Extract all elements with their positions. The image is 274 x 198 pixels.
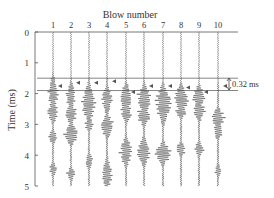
arrival-arrow-icon xyxy=(58,84,62,88)
waveform-trace xyxy=(174,32,188,186)
arrival-arrow-icon xyxy=(76,81,80,85)
waveform-trace xyxy=(137,32,151,186)
arrival-arrow-icon xyxy=(149,84,153,88)
arrival-arrow-icon xyxy=(112,79,116,83)
waveform-trace xyxy=(81,32,96,186)
interval-label: 0.32 ms xyxy=(232,79,259,89)
x-axis-title: Blow number xyxy=(103,9,158,20)
arrival-arrow-icon xyxy=(223,84,227,88)
x-tick-label: 6 xyxy=(142,20,146,30)
x-tick-label: 3 xyxy=(87,20,91,30)
axes: 01234512345678910 xyxy=(25,20,239,192)
y-tick-label: 0 xyxy=(25,28,30,38)
x-tick-label: 10 xyxy=(214,20,223,30)
waveform-trace xyxy=(212,32,226,186)
waveform-trace xyxy=(155,32,172,186)
x-tick-label: 7 xyxy=(161,20,165,30)
x-tick-label: 9 xyxy=(197,20,201,30)
arrival-arrow-icon xyxy=(168,84,172,88)
y-axis-title: Time (ms) xyxy=(6,89,18,131)
x-tick-label: 4 xyxy=(105,20,110,30)
waveform-trace xyxy=(63,32,77,186)
x-tick-label: 8 xyxy=(179,20,183,30)
x-tick-label: 1 xyxy=(51,20,55,30)
reference-lines xyxy=(37,78,238,90)
seismic-chart: Blow number 01234512345678910 Time (ms) … xyxy=(0,0,274,198)
waveform-trace xyxy=(47,32,58,186)
y-tick-label: 3 xyxy=(25,120,30,130)
arrival-arrow-icon xyxy=(94,81,98,85)
interval-annotation: 0.32 ms xyxy=(227,78,259,90)
waveform-trace xyxy=(192,32,205,186)
y-tick-label: 5 xyxy=(25,182,30,192)
waveform-trace xyxy=(101,32,113,186)
y-tick-label: 4 xyxy=(25,151,30,161)
waveform-trace xyxy=(119,32,132,186)
x-tick-label: 5 xyxy=(124,20,128,30)
y-tick-label: 2 xyxy=(25,89,30,99)
arrival-arrow-icon xyxy=(186,85,190,89)
waveform-traces xyxy=(47,32,225,186)
x-tick-label: 2 xyxy=(69,20,73,30)
y-tick-label: 1 xyxy=(25,58,30,68)
